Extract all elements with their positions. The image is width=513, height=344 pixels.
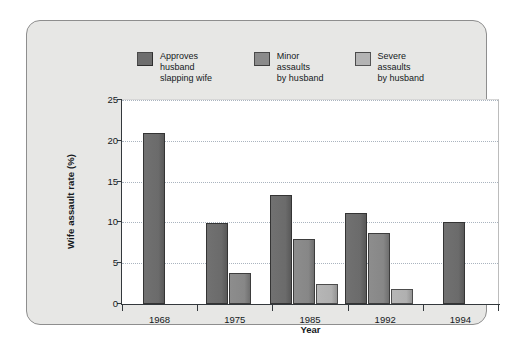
bar-1992-series-2 bbox=[368, 233, 390, 304]
gridline-10 bbox=[122, 222, 498, 223]
chart-legend: Approves husband slapping wife Minor ass… bbox=[137, 51, 437, 81]
y-tick-label-10: 10 bbox=[107, 216, 118, 227]
y-axis: 0510152025 bbox=[121, 99, 122, 305]
bar-1968-series-1 bbox=[143, 133, 165, 304]
y-tick-label-25: 25 bbox=[107, 94, 118, 105]
legend-swatch-icon-series-1 bbox=[137, 52, 153, 66]
bar-1985-series-2 bbox=[293, 239, 315, 304]
gridline-15 bbox=[122, 182, 498, 183]
bar-1992-series-3 bbox=[391, 289, 413, 305]
x-axis: 19681975198519921994 bbox=[121, 304, 500, 305]
x-axis-title: Year bbox=[122, 324, 499, 335]
chart-frame: Approves husband slapping wife Minor ass… bbox=[26, 20, 487, 325]
bar-1985-series-1 bbox=[270, 195, 292, 304]
bar-1985-series-3 bbox=[316, 284, 338, 304]
y-tick-label-5: 5 bbox=[113, 257, 118, 268]
x-tick-mark-3 bbox=[348, 305, 349, 311]
x-tick-mark-2 bbox=[272, 305, 273, 311]
y-tick-label-15: 15 bbox=[107, 175, 118, 186]
legend-swatch-icon-series-2 bbox=[254, 52, 270, 66]
gridline-20 bbox=[122, 141, 498, 142]
x-tick-mark-4 bbox=[423, 305, 424, 311]
y-tick-label-0: 0 bbox=[113, 298, 118, 309]
legend-swatch-icon-series-3 bbox=[355, 52, 371, 66]
legend-label-series-3: Severe assaults by husband bbox=[378, 51, 437, 84]
legend-entry-approves-husband-slapping-wife: Approves husband slapping wife bbox=[137, 51, 230, 84]
bar-1975-series-1 bbox=[206, 223, 228, 304]
bar-1975-series-2 bbox=[229, 273, 251, 304]
legend-entry-severe-assaults-by-husband: Severe assaults by husband bbox=[355, 51, 437, 84]
legend-entry-minor-assaults-by-husband: Minor assaults by husband bbox=[254, 51, 331, 84]
x-tick-mark-1 bbox=[197, 305, 198, 311]
legend-label-series-1: Approves husband slapping wife bbox=[160, 51, 230, 84]
gridline-25 bbox=[122, 100, 498, 101]
bar-1992-series-1 bbox=[345, 213, 367, 304]
x-tick-mark-end bbox=[498, 305, 499, 311]
x-tick-mark-0 bbox=[122, 305, 123, 311]
plot-area bbox=[122, 99, 499, 304]
y-axis-title: Wife assault rate (%) bbox=[65, 99, 79, 304]
legend-label-series-2: Minor assaults by husband bbox=[277, 51, 331, 84]
bar-1994-series-1 bbox=[443, 222, 465, 304]
chart-figure: Approves husband slapping wife Minor ass… bbox=[0, 0, 513, 344]
y-tick-label-20: 20 bbox=[107, 134, 118, 145]
